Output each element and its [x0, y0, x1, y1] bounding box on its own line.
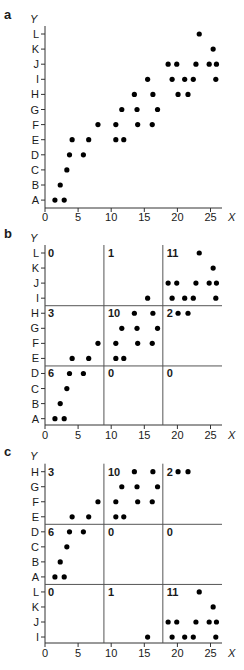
data-point: [185, 92, 190, 97]
y-tick-label: A: [32, 571, 40, 583]
data-point: [197, 250, 202, 255]
y-tick-label: H: [31, 466, 39, 478]
y-tick-label: B: [32, 556, 39, 568]
data-point: [150, 499, 155, 504]
data-point: [197, 589, 202, 594]
data-point: [193, 619, 198, 624]
y-tick-label: E: [32, 511, 39, 523]
x-tick-label: 5: [75, 211, 81, 223]
data-point: [175, 469, 180, 474]
data-point: [211, 47, 216, 52]
y-axis-title: Y: [30, 232, 38, 244]
y-tick-label: G: [30, 481, 39, 493]
y-tick-label: L: [33, 28, 39, 40]
x-tick-label: 25: [204, 647, 216, 659]
x-tick-label: 10: [105, 429, 117, 441]
y-axis-title: Y: [30, 13, 38, 25]
data-point: [191, 77, 196, 82]
data-point: [145, 77, 150, 82]
y-tick-label: E: [32, 134, 39, 146]
data-point: [174, 62, 179, 67]
data-point: [132, 311, 137, 316]
data-point: [121, 356, 126, 361]
x-tick-label: 25: [204, 211, 216, 223]
region-count-label: 0: [48, 247, 54, 259]
data-point: [81, 371, 86, 376]
data-point: [70, 137, 75, 142]
data-point: [170, 77, 175, 82]
y-tick-label: K: [32, 262, 40, 274]
data-point: [150, 341, 155, 346]
data-point: [185, 469, 190, 474]
data-point: [113, 356, 118, 361]
data-point: [145, 634, 150, 639]
data-point: [58, 559, 63, 564]
data-point: [113, 514, 118, 519]
y-tick-label: C: [31, 164, 39, 176]
data-point: [58, 182, 63, 187]
data-point: [81, 152, 86, 157]
y-tick-label: D: [31, 526, 39, 538]
data-point: [52, 198, 57, 203]
x-axis-title: X: [227, 429, 236, 441]
region-count-label: 6: [48, 526, 54, 538]
data-point: [170, 296, 175, 301]
scatter-figure: aYLKJIHGFEDCBA0510152025XbYLKJIHGFEDCBA0…: [0, 0, 244, 670]
y-tick-label: J: [34, 616, 40, 628]
data-point: [62, 574, 67, 579]
y-tick-label: G: [30, 104, 39, 116]
data-point: [197, 31, 202, 36]
y-tick-label: J: [34, 277, 40, 289]
y-tick-label: J: [34, 58, 40, 70]
data-point: [119, 484, 124, 489]
region-count-label: 2: [167, 307, 173, 319]
data-point: [170, 634, 175, 639]
data-point: [213, 634, 218, 639]
y-tick-label: C: [31, 383, 39, 395]
x-tick-label: 20: [171, 429, 183, 441]
x-tick-label: 0: [42, 647, 48, 659]
x-axis-title: X: [227, 647, 236, 659]
data-point: [174, 281, 179, 286]
y-tick-label: B: [32, 179, 39, 191]
data-point: [166, 619, 171, 624]
data-point: [211, 265, 216, 270]
y-tick-label: F: [32, 496, 39, 508]
data-point: [166, 62, 171, 67]
data-point: [132, 92, 137, 97]
data-point: [134, 107, 139, 112]
data-point: [182, 634, 187, 639]
data-point: [211, 604, 216, 609]
y-axis-title: Y: [30, 450, 38, 462]
y-tick-label: G: [30, 322, 39, 334]
y-tick-label: I: [36, 292, 39, 304]
data-point: [67, 529, 72, 534]
data-point: [182, 77, 187, 82]
x-tick-label: 5: [75, 429, 81, 441]
data-point: [135, 341, 140, 346]
data-point: [86, 356, 91, 361]
data-point: [175, 311, 180, 316]
data-point: [119, 326, 124, 331]
data-point: [70, 514, 75, 519]
data-point: [166, 281, 171, 286]
x-tick-label: 15: [138, 647, 150, 659]
data-point: [185, 311, 190, 316]
x-tick-label: 20: [171, 211, 183, 223]
y-tick-label: D: [31, 367, 39, 379]
data-point: [155, 326, 160, 331]
data-point: [52, 574, 57, 579]
data-point: [150, 311, 155, 316]
region-count-label: 10: [108, 307, 120, 319]
data-point: [119, 107, 124, 112]
region-count-label: 6: [48, 367, 54, 379]
data-point: [155, 484, 160, 489]
region-count-label: 10: [108, 466, 120, 478]
data-point: [67, 371, 72, 376]
y-tick-label: L: [33, 586, 39, 598]
x-axis-title: X: [227, 211, 236, 223]
data-point: [150, 469, 155, 474]
data-point: [95, 341, 100, 346]
data-point: [64, 544, 69, 549]
data-point: [191, 296, 196, 301]
